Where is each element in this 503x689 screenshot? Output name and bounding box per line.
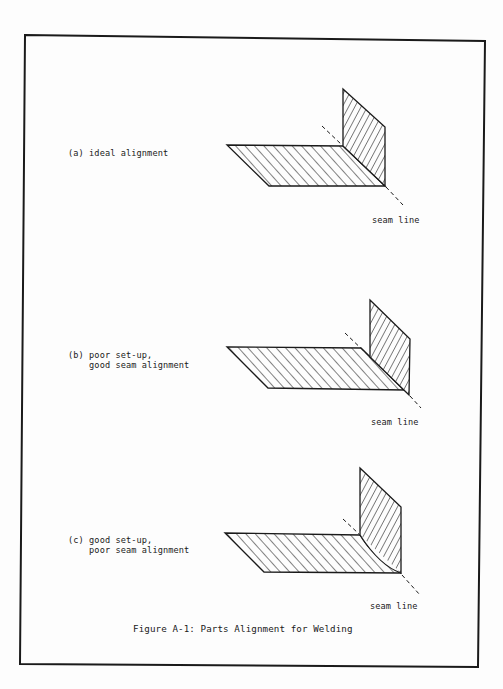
panel-c-label-line2: poor seam alignment xyxy=(68,545,189,556)
seam-line-upper xyxy=(343,519,359,534)
panel-a-seam-label: seam line xyxy=(372,215,419,226)
panel-a-drawing xyxy=(227,89,403,205)
seam-line-lower xyxy=(402,575,420,595)
panel-c-seam-label: seam line xyxy=(370,601,417,612)
panel-a-label: (a) ideal alignment xyxy=(68,148,168,159)
panel-c-label-line1: (c) good set-up, xyxy=(68,535,152,546)
figure-canvas xyxy=(0,0,503,689)
figure-caption: Figure A-1: Parts Alignment for Welding xyxy=(133,624,353,635)
seam-line-lower xyxy=(386,187,403,205)
panel-b-seam-label: seam line xyxy=(371,417,418,428)
seam-line-upper xyxy=(322,126,342,145)
panel-b-label-line1: (b) poor set-up, xyxy=(68,350,152,361)
panel-b-label-line2: good seam alignment xyxy=(68,360,189,371)
panel-c-drawing xyxy=(225,468,420,595)
panel-b-drawing xyxy=(227,300,421,408)
seam-line-lower xyxy=(410,396,421,408)
